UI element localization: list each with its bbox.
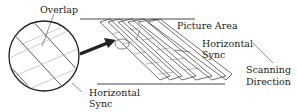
horizontal-sync-right-label-line2: Sync (202, 49, 225, 60)
scanning-direction-leader (253, 43, 273, 63)
magnified-circle (0, 18, 90, 110)
scanning-direction-label-line1: Scanning (246, 64, 291, 75)
overlap-label: Overlap (40, 4, 78, 15)
picture-area-label: Picture Area (177, 20, 238, 31)
picture-area-leader (136, 30, 140, 40)
horizontal-sync-bottom-label-line2: Sync (89, 98, 112, 109)
scanning-direction-label-line2: Direction (246, 76, 291, 87)
magnify-arrow (80, 38, 116, 54)
horizontal-sync-right-label-line1: Horizontal (202, 38, 253, 49)
diagram-graphic (0, 0, 297, 112)
horizontal-sync-bottom-label-line1: Horizontal (89, 87, 140, 98)
hsync-bottom-leader (72, 83, 82, 92)
helical-scan-diagram: Overlap Picture Area Horizontal Sync Sca… (0, 0, 297, 112)
